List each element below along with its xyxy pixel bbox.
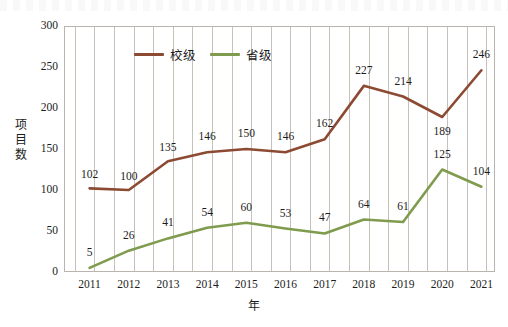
data-label: 47: [302, 212, 348, 224]
y-axis-tick: 300: [14, 20, 58, 32]
data-label: 41: [145, 217, 191, 229]
y-axis-tick: 250: [14, 61, 58, 73]
data-label: 61: [380, 201, 426, 213]
data-label: 5: [67, 247, 113, 259]
data-label: 146: [263, 131, 309, 143]
y-axis-title-char: 目: [13, 133, 29, 148]
data-label: 100: [106, 171, 152, 183]
y-axis-title-char: 项: [13, 118, 29, 133]
data-label: 135: [145, 142, 191, 154]
y-axis-tick: 200: [14, 102, 58, 114]
x-axis-tick: 2021: [455, 278, 507, 290]
data-label: 162: [302, 118, 348, 130]
data-label: 26: [106, 230, 152, 242]
legend-label: 校级: [170, 45, 196, 64]
legend-item-校级: 校级: [134, 45, 196, 64]
data-label: 104: [458, 166, 504, 178]
legend-swatch: [210, 53, 240, 56]
y-axis-tick: 0: [14, 266, 58, 278]
y-axis-tick: 100: [14, 184, 58, 196]
data-label: 189: [419, 126, 465, 138]
legend-item-省级: 省级: [210, 45, 272, 64]
y-axis-title: 项目数: [13, 118, 29, 163]
data-label: 246: [458, 49, 504, 61]
x-axis-title: 年: [0, 296, 508, 314]
data-label: 125: [419, 149, 465, 161]
y-axis-tick: 50: [14, 225, 58, 237]
chart-legend: 校级省级: [134, 45, 272, 64]
legend-swatch: [134, 53, 164, 56]
legend-label: 省级: [246, 45, 272, 64]
data-label: 214: [380, 76, 426, 88]
y-axis-title-char: 数: [13, 148, 29, 163]
